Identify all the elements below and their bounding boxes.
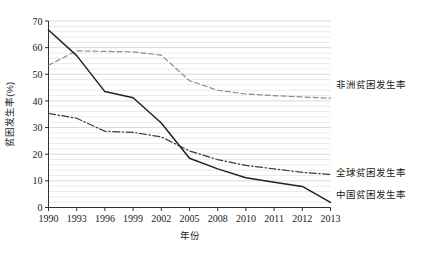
x-axis-tick-labels: 1990199319961999200220052008201020112012… xyxy=(39,213,341,224)
x-tick-label: 2010 xyxy=(236,213,256,224)
x-tick-label: 1999 xyxy=(123,213,143,224)
y-tick-label: 0 xyxy=(38,202,43,213)
series-label: 非洲贫困发生率 xyxy=(336,79,406,90)
y-tick-label: 60 xyxy=(33,42,43,53)
x-tick-label: 2013 xyxy=(321,213,341,224)
chart-figure: 010203040506070 199019931996199920022005… xyxy=(0,0,421,262)
y-tick-label: 30 xyxy=(33,122,43,133)
x-tick-label: 2002 xyxy=(151,213,171,224)
x-tick-label: 2012 xyxy=(292,213,312,224)
x-axis-title: 年份 xyxy=(180,230,200,241)
y-tick-label: 50 xyxy=(33,69,43,80)
y-tick-label: 70 xyxy=(33,16,43,27)
plot-background xyxy=(49,21,331,208)
x-tick-label: 1993 xyxy=(67,213,87,224)
x-tick-label: 1990 xyxy=(39,213,59,224)
y-tick-label: 40 xyxy=(33,96,43,107)
y-axis-tick-labels: 010203040506070 xyxy=(33,16,43,214)
series-label: 全球贫困发生率 xyxy=(336,167,406,178)
y-tick-label: 20 xyxy=(33,149,43,160)
x-tick-label: 2005 xyxy=(180,213,200,224)
poverty-rate-line-chart: 010203040506070 199019931996199920022005… xyxy=(0,0,421,262)
x-tick-label: 2008 xyxy=(208,213,228,224)
y-tick-label: 10 xyxy=(33,175,43,186)
y-axis-title: 贫困发生率(%) xyxy=(4,82,15,147)
x-tick-label: 2011 xyxy=(264,213,284,224)
x-axis-ticks xyxy=(49,208,331,212)
series-inline-labels: 非洲贫困发生率全球贫困发生率中国贫困发生率 xyxy=(336,79,406,200)
y-axis-ticks xyxy=(45,21,49,208)
x-tick-label: 1996 xyxy=(95,213,115,224)
series-label: 中国贫困发生率 xyxy=(336,189,406,200)
